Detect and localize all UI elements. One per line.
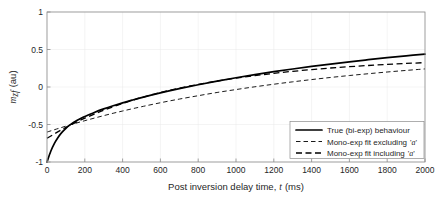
x-tick-label: 200	[78, 165, 92, 175]
y-tick-label: -0.5	[28, 120, 43, 130]
y-tick-label: 0.5	[31, 45, 43, 55]
x-tick-label: 600	[153, 165, 167, 175]
x-axis-title-symbol: t	[279, 182, 282, 192]
legend-label: True (bi-exp) behaviour	[327, 126, 410, 135]
x-tick-label: 2000	[416, 165, 435, 175]
x-tick-label: 1400	[302, 165, 321, 175]
legend: True (bi-exp) behaviourMono-exp fit excl…	[290, 122, 424, 159]
legend-label: Mono-exp fit including'a'	[327, 149, 415, 158]
chart-figure: 0200400600800100012001400160018002000 -1…	[0, 0, 447, 201]
x-tick-label: 1000	[227, 165, 246, 175]
x-tick-label: 1200	[264, 165, 283, 175]
y-tick-label: 0	[38, 82, 43, 92]
legend-label: Mono-exp fit excluding'a'	[327, 138, 418, 147]
y-tick-label: -1	[35, 157, 43, 167]
y-tick-label: 1	[38, 7, 43, 17]
x-axis-title-unit: (ms)	[285, 181, 304, 192]
x-tick-label: 400	[116, 165, 130, 175]
x-tick-label: 0	[45, 165, 50, 175]
x-tick-label: 800	[191, 165, 205, 175]
x-tick-label: 1800	[378, 165, 397, 175]
x-tick-label: 1600	[340, 165, 359, 175]
y-axis-title-unit: (au)	[7, 70, 18, 87]
x-axis-title-prefix: Post inversion delay time,	[168, 181, 276, 192]
